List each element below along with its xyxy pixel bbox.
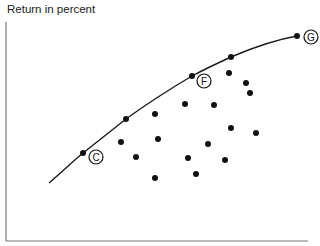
portfolio-dot — [205, 141, 211, 147]
portfolio-dot — [155, 136, 161, 142]
portfolio-dot — [211, 102, 217, 108]
portfolio-point-c — [80, 150, 86, 156]
portfolio-dot — [185, 155, 191, 161]
portfolio-dot — [193, 171, 199, 177]
portfolio-dot — [133, 154, 139, 160]
portfolio-dot — [247, 90, 253, 96]
portfolio-dot — [152, 111, 158, 117]
efficient-frontier-curve — [49, 36, 297, 183]
portfolio-dot — [253, 130, 259, 136]
portfolio-dot — [118, 139, 124, 145]
axes — [6, 22, 308, 241]
point-label-c: C — [92, 152, 99, 163]
labeled-points: CFG — [80, 30, 318, 164]
frontier-dot — [228, 54, 234, 60]
portfolio-dot — [228, 125, 234, 131]
portfolio-point-g — [294, 33, 300, 39]
portfolio-point-f — [189, 73, 195, 79]
point-label-f: F — [201, 76, 207, 87]
portfolio-dot — [152, 175, 158, 181]
portfolio-dot — [182, 101, 188, 107]
point-label-g: G — [307, 32, 315, 43]
portfolio-dot — [222, 157, 228, 163]
portfolio-dot — [226, 70, 232, 76]
frontier-dots — [123, 54, 234, 122]
interior-dots — [118, 70, 259, 181]
frontier-dot — [123, 116, 129, 122]
chart-canvas: CFG — [0, 0, 320, 246]
portfolio-dot — [243, 80, 249, 86]
